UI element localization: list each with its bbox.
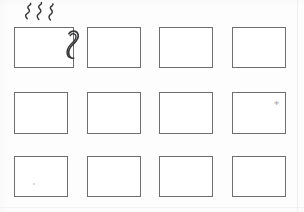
frame-cell-7[interactable] [159,92,213,134]
scan-seam-right [297,0,298,212]
frame-cell-9[interactable] [14,156,68,197]
frame-cell-5[interactable] [14,92,68,134]
frame-cell-10[interactable] [87,156,141,197]
frame-cell-3[interactable] [159,27,213,68]
document-title: Storyboard grid worksheet [0,0,1,1]
frame-cell-12[interactable] [232,156,286,197]
frame-cell-6[interactable] [87,92,141,134]
steam-wisp-left-icon [26,3,31,18]
worksheet-page: ✚ Storyboard grid worksheet [0,0,304,212]
frame-cell-1[interactable] [14,27,74,68]
steam-wisp-right-icon [49,4,53,20]
scan-seam-bottom [0,207,304,208]
frame-cell-2[interactable] [87,27,141,68]
frame-cell-11[interactable] [159,156,213,197]
frame-cell-8[interactable] [232,92,286,134]
steam-wisp-middle-icon [37,3,41,20]
frame-cell-4[interactable] [232,27,286,68]
